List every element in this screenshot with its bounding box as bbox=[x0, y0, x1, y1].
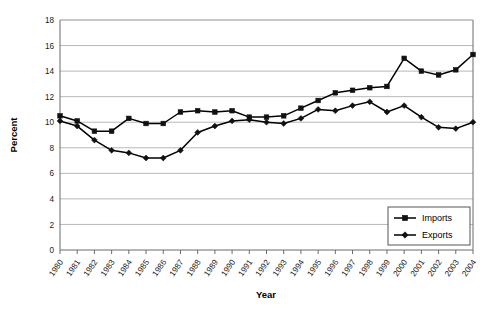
y-tick-label: 12 bbox=[45, 93, 55, 102]
data-point-square bbox=[195, 108, 200, 113]
data-point-square bbox=[316, 98, 321, 103]
data-point-square bbox=[436, 73, 441, 78]
data-point-square bbox=[144, 121, 149, 126]
legend-label: Exports bbox=[422, 230, 453, 240]
y-tick-label: 18 bbox=[45, 16, 55, 25]
y-tick-label: 0 bbox=[49, 246, 54, 255]
data-point-square bbox=[109, 129, 114, 134]
data-point-square bbox=[453, 68, 458, 73]
data-point-square bbox=[402, 215, 407, 220]
y-tick-label: 16 bbox=[45, 42, 55, 51]
legend-label: Imports bbox=[422, 213, 453, 223]
data-point-square bbox=[471, 52, 476, 57]
y-tick-label: 4 bbox=[49, 195, 54, 204]
data-point-square bbox=[419, 69, 424, 74]
y-tick-label: 10 bbox=[45, 118, 55, 127]
chart-legend: ImportsExports bbox=[388, 207, 470, 245]
y-tick-label: 2 bbox=[49, 221, 54, 230]
data-point-square bbox=[281, 114, 286, 119]
y-tick-label: 6 bbox=[49, 169, 54, 178]
x-axis-title: Year bbox=[256, 289, 276, 300]
data-point-square bbox=[178, 110, 183, 115]
data-point-square bbox=[75, 119, 80, 124]
y-tick-label: 8 bbox=[49, 144, 54, 153]
data-point-square bbox=[350, 88, 355, 93]
data-point-square bbox=[402, 56, 407, 61]
y-axis-title: Percent bbox=[8, 117, 19, 153]
data-point-square bbox=[333, 91, 338, 96]
data-point-square bbox=[213, 110, 218, 115]
chart-canvas: 024681012141618 198019811982198319841985… bbox=[0, 0, 497, 311]
data-point-square bbox=[367, 85, 372, 90]
data-point-square bbox=[264, 115, 269, 120]
line-chart: 024681012141618 198019811982198319841985… bbox=[0, 0, 497, 311]
y-tick-label: 14 bbox=[45, 67, 55, 76]
data-point-square bbox=[92, 129, 97, 134]
data-point-square bbox=[161, 121, 166, 126]
data-point-square bbox=[230, 108, 235, 113]
data-point-square bbox=[127, 116, 132, 121]
data-point-square bbox=[299, 106, 304, 111]
data-point-square bbox=[385, 84, 390, 89]
data-point-square bbox=[58, 114, 63, 119]
